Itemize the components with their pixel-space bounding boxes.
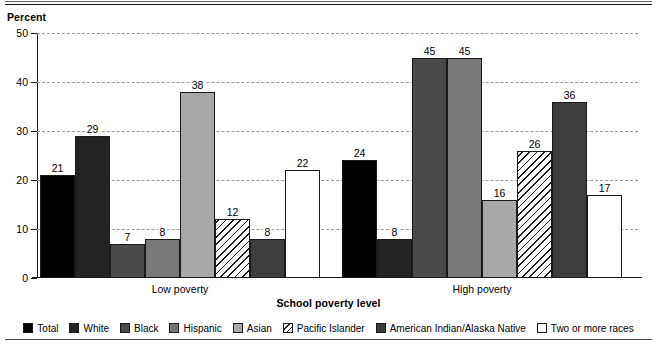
bar-value-label: 16: [492, 188, 508, 199]
y-axis-tick-label: 0: [22, 272, 28, 284]
bar-value-label: 21: [50, 163, 66, 174]
legend-label: Two or more races: [551, 323, 634, 334]
legend-label: Black: [134, 323, 158, 334]
legend-swatch-icon: [69, 323, 79, 333]
y-axis-tick: [31, 278, 37, 279]
y-axis-line: [37, 33, 38, 278]
legend-item[interactable]: Black: [120, 323, 158, 334]
legend-item[interactable]: Total: [23, 323, 58, 334]
gridline: [37, 131, 638, 132]
legend-label: Asian: [247, 323, 272, 334]
footer-rule: [5, 339, 652, 340]
bar: 26: [517, 151, 552, 278]
bar: 16: [482, 200, 517, 278]
legend-swatch-icon: [376, 323, 386, 333]
bar: 21: [40, 175, 75, 278]
bar: 8: [145, 239, 180, 278]
legend-swatch-icon: [233, 323, 243, 333]
y-axis-tick-label: 20: [16, 174, 28, 186]
gridline: [37, 33, 638, 34]
y-axis-tick-label: 10: [16, 223, 28, 235]
bar-value-label: 8: [158, 227, 168, 238]
bar: 36: [552, 102, 587, 278]
y-axis-tick: [31, 180, 37, 181]
y-axis-tick: [31, 131, 37, 132]
bar: 38: [180, 92, 215, 278]
legend-label: Hispanic: [183, 323, 221, 334]
bar-value-label: 24: [352, 148, 368, 159]
legend-swatch-icon: [537, 323, 547, 333]
chart-legend: TotalWhiteBlackHispanicAsianPacific Isla…: [0, 320, 657, 336]
legend-swatch-icon: [169, 323, 179, 333]
plot-area: 01020304050 2129783812822248454516263617: [37, 33, 638, 278]
legend-item[interactable]: Pacific Islander: [283, 323, 365, 334]
bar-value-label: 26: [527, 139, 543, 150]
bar-value-label: 8: [390, 227, 400, 238]
bar: 8: [250, 239, 285, 278]
legend-label: Pacific Islander: [297, 323, 365, 334]
legend-item[interactable]: Hispanic: [169, 323, 221, 334]
bar-value-label: 17: [597, 183, 613, 194]
bar-value-label: 22: [295, 158, 311, 169]
header-rule: [5, 4, 652, 5]
bar: 29: [75, 136, 110, 278]
y-axis-unit-label: Percent: [7, 11, 46, 23]
bar: 12: [215, 219, 250, 278]
header-rule-thin: [5, 1, 652, 2]
legend-item[interactable]: Asian: [233, 323, 272, 334]
x-axis-title: School poverty level: [0, 297, 657, 309]
bar-value-label: 45: [457, 46, 473, 57]
bar-value-label: 36: [562, 90, 578, 101]
y-axis-tick-label: 50: [16, 27, 28, 39]
bar-value-label: 8: [263, 227, 273, 238]
legend-swatch-icon: [283, 323, 293, 333]
x-axis-group-label: Low poverty: [152, 283, 209, 295]
bar: 22: [285, 170, 320, 278]
y-axis-tick-label: 30: [16, 125, 28, 137]
legend-item[interactable]: Two or more races: [537, 323, 634, 334]
legend-item[interactable]: White: [69, 323, 109, 334]
y-axis-tick: [31, 229, 37, 230]
legend-swatch-icon: [23, 323, 33, 333]
legend-label: Total: [37, 323, 58, 334]
bar: 24: [342, 160, 377, 278]
bar: 45: [447, 58, 482, 279]
x-axis-group-label: High poverty: [453, 283, 512, 295]
bar-value-label: 7: [123, 232, 133, 243]
bar-value-label: 38: [190, 80, 206, 91]
bar-value-label: 29: [85, 124, 101, 135]
legend-label: White: [83, 323, 109, 334]
legend-item[interactable]: American Indian/Alaska Native: [376, 323, 526, 334]
legend-label: American Indian/Alaska Native: [390, 323, 526, 334]
bar-value-label: 45: [422, 46, 438, 57]
y-axis-tick: [31, 82, 37, 83]
bar: 7: [110, 244, 145, 278]
y-axis-tick: [31, 33, 37, 34]
bar: 45: [412, 58, 447, 279]
bar: 17: [587, 195, 622, 278]
chart-figure: Percent 01020304050 21297838128222484545…: [0, 0, 657, 344]
bar-value-label: 12: [225, 207, 241, 218]
bar: 8: [377, 239, 412, 278]
y-axis-tick-label: 40: [16, 76, 28, 88]
legend-swatch-icon: [120, 323, 130, 333]
gridline: [37, 82, 638, 83]
